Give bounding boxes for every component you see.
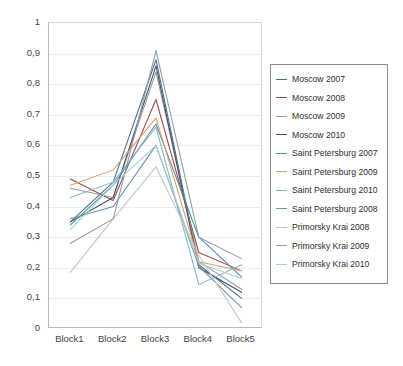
legend-line-swatch-icon (276, 79, 287, 80)
y-axis-tick-label: 0,5 (27, 170, 40, 180)
series-line (70, 72, 241, 289)
legend-line-swatch-icon (276, 171, 287, 172)
y-axis-tick-label: 0 (35, 323, 40, 333)
series-line (70, 51, 241, 259)
chart-legend: Moscow 2007Moscow 2008Moscow 2009Moscow … (270, 64, 388, 284)
y-axis-tick-label: 0,9 (27, 48, 40, 58)
x-axis-tick-label: Block2 (98, 333, 127, 344)
y-axis-tick-label: 1 (35, 17, 40, 27)
legend-item-label: Primorsky Krai 2010 (292, 259, 369, 269)
legend-item-label: Moscow 2009 (292, 111, 345, 121)
y-axis-tick-label: 0,7 (27, 109, 40, 119)
legend-line-swatch-icon (276, 116, 287, 117)
x-axis-tick-label: Block5 (226, 333, 255, 344)
legend-item[interactable]: Primorsky Krai 2010 (276, 255, 383, 274)
legend-item[interactable]: Primorsky Krai 2009 (276, 237, 383, 256)
legend-item[interactable]: Moscow 2009 (276, 107, 383, 126)
x-axis: Block1Block2Block3Block4Block5 (48, 333, 262, 355)
y-axis-tick-label: 0,3 (27, 231, 40, 241)
series-line (70, 127, 241, 285)
legend-line-swatch-icon (276, 134, 287, 135)
legend-item[interactable]: Saint Petersburg 2008 (276, 200, 383, 219)
legend-item-label: Moscow 2010 (292, 130, 345, 140)
legend-item-label: Saint Petersburg 2010 (292, 185, 378, 195)
plot-area (48, 22, 262, 328)
legend-item-label: Primorsky Krai 2008 (292, 222, 369, 232)
legend-item-label: Saint Petersburg 2008 (292, 204, 378, 214)
legend-item[interactable]: Moscow 2008 (276, 89, 383, 108)
line-chart-figure: 00,10,20,30,40,50,60,70,80,91 Block1Bloc… (0, 0, 403, 366)
legend-item[interactable]: Moscow 2007 (276, 70, 383, 89)
legend-item[interactable]: Moscow 2010 (276, 126, 383, 145)
legend-item[interactable]: Primorsky Krai 2008 (276, 218, 383, 237)
legend-item-label: Saint Petersburg 2007 (292, 148, 378, 158)
series-line (70, 118, 241, 271)
legend-line-swatch-icon (276, 208, 287, 209)
legend-line-swatch-icon (276, 190, 287, 191)
x-axis-tick-label: Block4 (184, 333, 213, 344)
series-line (70, 60, 241, 299)
legend-item[interactable]: Saint Petersburg 2007 (276, 144, 383, 163)
legend-item[interactable]: Saint Petersburg 2010 (276, 181, 383, 200)
y-axis-tick-label: 0,8 (27, 78, 40, 88)
legend-line-swatch-icon (276, 264, 287, 265)
legend-line-swatch-icon (276, 245, 287, 246)
legend-item-label: Moscow 2007 (292, 74, 345, 84)
legend-item-label: Moscow 2008 (292, 93, 345, 103)
legend-item-label: Primorsky Krai 2009 (292, 241, 369, 251)
x-axis-tick-label: Block3 (141, 333, 170, 344)
legend-item-label: Saint Petersburg 2009 (292, 167, 378, 177)
x-axis-tick-label: Block1 (55, 333, 84, 344)
legend-line-swatch-icon (276, 97, 287, 98)
y-axis-tick-label: 0,4 (27, 201, 40, 211)
legend-line-swatch-icon (276, 153, 287, 154)
series-lines (49, 23, 263, 329)
y-axis: 00,10,20,30,40,50,60,70,80,91 (0, 0, 46, 366)
y-axis-tick-label: 0,2 (27, 262, 40, 272)
y-axis-tick-label: 0,1 (27, 292, 40, 302)
series-line (70, 167, 241, 323)
legend-line-swatch-icon (276, 227, 287, 228)
legend-item[interactable]: Saint Petersburg 2009 (276, 163, 383, 182)
y-axis-tick-label: 0,6 (27, 139, 40, 149)
